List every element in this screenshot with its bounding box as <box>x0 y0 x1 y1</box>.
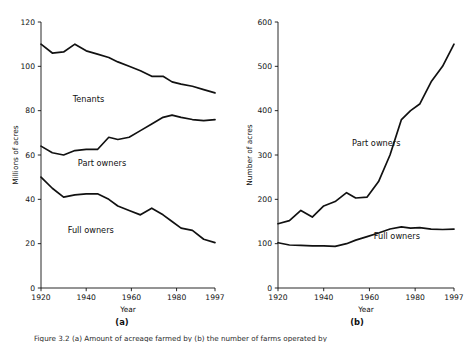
y-axis-tick-label: 0 <box>267 284 272 293</box>
y-axis-title: Millions of acres <box>11 125 20 184</box>
series-annotation-part-owners: Part owners <box>352 138 400 148</box>
y-axis-tick-label: 60 <box>25 151 35 160</box>
series-line-part-owners <box>41 115 215 155</box>
y-axis-tick-label: 300 <box>258 151 273 160</box>
series-annotation-tenants: Tenants <box>72 94 105 104</box>
series-annotation-full-owners: Full owners <box>68 225 114 235</box>
y-axis-tick-label: 20 <box>25 239 35 248</box>
series-annotation-full-owners: Full owners <box>374 231 420 241</box>
chart-a-canvas: 02040608010012019201940196019801997YearM… <box>0 0 235 330</box>
x-axis-tick-label: 1980 <box>167 293 186 302</box>
figure-caption: Figure 3.2 (a) Amount of acreage farmed … <box>34 334 454 342</box>
series-line-full-owners <box>278 227 454 247</box>
x-axis-tick-label: 1940 <box>314 293 333 302</box>
y-axis-tick-label: 500 <box>258 62 273 71</box>
figure-container: 02040608010012019201940196019801997YearM… <box>0 0 469 342</box>
x-axis-tick-label: 1960 <box>360 293 379 302</box>
y-axis-tick-label: 100 <box>258 239 273 248</box>
y-axis-tick-label: 400 <box>258 106 273 115</box>
x-axis-tick-label: 1997 <box>444 293 463 302</box>
y-axis-tick-label: 40 <box>25 195 35 204</box>
x-axis-tick-label: 1980 <box>405 293 424 302</box>
x-axis-title: Year <box>119 305 137 314</box>
y-axis-tick-label: 600 <box>258 18 273 27</box>
x-axis-tick-label: 1997 <box>205 293 224 302</box>
chart-panel-a: 02040608010012019201940196019801997YearM… <box>0 0 235 330</box>
x-axis-tick-label: 1940 <box>77 293 96 302</box>
chart-panel-b: 010020030040050060019201940196019801997Y… <box>234 0 469 330</box>
x-axis-title: Year <box>357 305 375 314</box>
y-axis-tick-label: 100 <box>21 62 36 71</box>
panel-a-label: (a) <box>102 317 142 327</box>
y-axis-tick-label: 80 <box>25 106 35 115</box>
x-axis-tick-label: 1920 <box>268 293 287 302</box>
series-annotation-part-owners: Part owners <box>78 158 126 168</box>
x-axis-tick-label: 1960 <box>122 293 141 302</box>
panel-b-label: (b) <box>337 317 377 327</box>
y-axis-tick-label: 200 <box>258 195 273 204</box>
series-line-part-owners <box>278 44 454 224</box>
x-axis-tick-label: 1920 <box>31 293 50 302</box>
series-line-tenants <box>41 44 215 93</box>
chart-b-canvas: 010020030040050060019201940196019801997Y… <box>234 0 469 330</box>
y-axis-tick-label: 0 <box>30 284 35 293</box>
y-axis-title: Number of acres <box>245 124 254 186</box>
y-axis-tick-label: 120 <box>21 18 36 27</box>
